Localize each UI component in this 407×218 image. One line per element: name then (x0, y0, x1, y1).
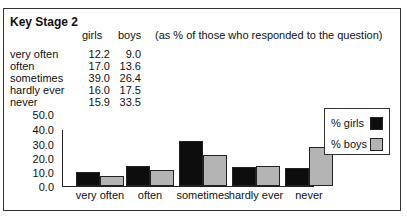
girls-value: 16.0 (82, 84, 110, 96)
bar-girls (179, 141, 203, 186)
table-header-girls: girls (82, 29, 102, 41)
y-tick-label: 50.0 (4, 109, 54, 121)
legend-label-girls: % girls (331, 117, 364, 129)
y-tick-label: 10.0 (4, 167, 54, 179)
bar-boys (150, 170, 174, 186)
row-label: sometimes (10, 72, 80, 84)
y-tick-label: 40.0 (4, 124, 54, 136)
boys-value: 13.6 (116, 60, 141, 72)
row-label: hardly ever (10, 84, 80, 96)
boys-value: 33.5 (116, 96, 141, 108)
legend-swatch-boys (370, 138, 383, 151)
row-label: often (10, 60, 80, 72)
girls-value: 12.2 (82, 48, 110, 60)
y-tick-label: 0.0 (4, 181, 54, 193)
girls-value: 15.9 (82, 96, 110, 108)
legend: % girls % boys (324, 108, 390, 155)
boys-value: 9.0 (116, 48, 141, 60)
bar-boys (256, 166, 280, 186)
bar-girls (76, 172, 100, 186)
row-label: never (10, 96, 80, 108)
legend-swatch-girls (370, 117, 383, 130)
girls-value: 39.0 (82, 72, 110, 84)
bar-boys (100, 176, 124, 186)
bar-girls (232, 167, 256, 186)
y-tick-label: 20.0 (4, 153, 54, 165)
x-tick-label: never (274, 189, 344, 201)
chart-note: (as % of those who responded to the ques… (155, 29, 382, 41)
bar-girls (285, 168, 309, 186)
boys-value: 26.4 (116, 72, 141, 84)
legend-label-boys: % boys (331, 138, 367, 150)
girls-value: 17.0 (82, 60, 110, 72)
bar-boys (203, 155, 227, 186)
y-axis-line (62, 130, 63, 186)
row-label: very often (10, 48, 80, 60)
bar-girls (126, 166, 150, 186)
table-header-boys: boys (118, 29, 141, 41)
chart-title: Key Stage 2 (10, 15, 78, 29)
y-tick-label: 30.0 (4, 139, 54, 151)
x-axis-line (62, 186, 314, 187)
boys-value: 17.5 (116, 84, 141, 96)
